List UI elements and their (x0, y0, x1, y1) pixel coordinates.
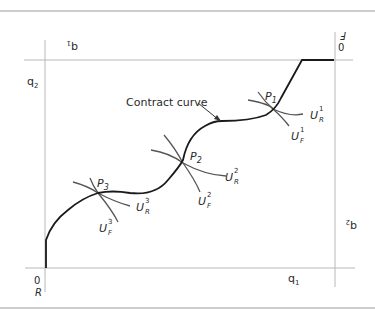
q1-top-rotated-label: q1 (67, 39, 78, 54)
point-P2-label: P2 (190, 150, 202, 165)
edgeworth-box-diagram: Contract curve P1 P2 P3 U 1 R U 1 F U 2 … (0, 0, 375, 317)
svg-text:U: U (136, 201, 144, 214)
svg-text:q2: q2 (346, 218, 357, 233)
svg-text:U: U (225, 171, 233, 184)
svg-text:U: U (291, 130, 299, 143)
contract-curve (46, 60, 334, 268)
svg-text:F: F (207, 202, 212, 210)
point-P1-label: P1 (265, 90, 277, 105)
label-UF2: U 2 F (198, 191, 212, 210)
label-UF3: U 3 F (99, 218, 113, 237)
svg-text:U: U (310, 109, 318, 122)
svg-text:F: F (300, 137, 305, 145)
label-UR2: U 2 R (225, 167, 239, 186)
label-UR1: U 1 R (310, 105, 324, 124)
svg-text:3: 3 (145, 197, 149, 205)
origin-R-zero: 0 (34, 275, 40, 286)
svg-text:R: R (319, 116, 324, 124)
label-UR3: U 3 R (136, 197, 150, 216)
point-P3-label: P3 (97, 177, 109, 192)
svg-text:2: 2 (207, 191, 211, 199)
svg-text:U: U (99, 222, 107, 235)
svg-text:F: F (108, 229, 113, 237)
svg-text:U: U (198, 195, 206, 208)
svg-text:3: 3 (108, 218, 112, 226)
svg-text:F: F (340, 30, 346, 41)
q2-left-label: q2 (27, 75, 38, 90)
arrowhead-icon (214, 115, 221, 121)
svg-text:q1: q1 (67, 39, 78, 54)
q1-bottom-label: q1 (288, 272, 299, 287)
contract-curve-label: Contract curve (126, 96, 208, 109)
origin-R-name: R (35, 287, 42, 298)
origin-F-zero: 0 (338, 42, 344, 53)
indifference-curves (73, 92, 303, 222)
svg-text:1: 1 (319, 105, 323, 113)
svg-text:R: R (145, 208, 150, 216)
q2-right-rotated-label: q2 (346, 218, 357, 233)
svg-text:R: R (234, 178, 239, 186)
origin-F-name-rotated: F (340, 30, 346, 41)
svg-text:1: 1 (300, 126, 304, 134)
label-UF1: U 1 F (291, 126, 305, 145)
svg-text:2: 2 (234, 167, 238, 175)
